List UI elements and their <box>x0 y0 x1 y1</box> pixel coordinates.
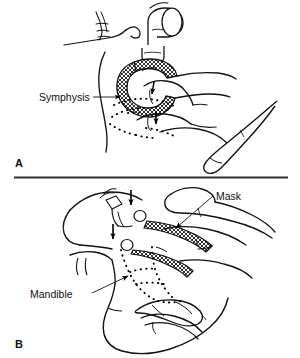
hand-a <box>137 68 236 143</box>
face-profile-a <box>64 12 140 152</box>
figure-root: A B Symphysis Mask Mandible <box>0 0 300 358</box>
mask-body-b <box>121 211 212 278</box>
panel-letter-b: B <box>15 339 23 350</box>
mask-leader-b <box>176 196 213 228</box>
airway-tubing-b <box>100 189 132 227</box>
mask-connector-a <box>142 3 183 62</box>
panel-a-group <box>64 3 277 174</box>
mandible-leader-b <box>92 276 128 293</box>
illustration-canvas <box>0 0 300 358</box>
mask-body-a <box>117 59 177 117</box>
label-mandible: Mandible <box>30 288 73 300</box>
panel-letter-a: A <box>15 158 23 169</box>
label-symphysis: Symphysis <box>39 91 90 103</box>
hand-b <box>164 188 275 320</box>
panel-b-group <box>63 188 275 354</box>
fingers-chin-b <box>135 300 202 339</box>
label-mask: Mask <box>216 190 241 202</box>
index-finger-a <box>204 101 277 173</box>
